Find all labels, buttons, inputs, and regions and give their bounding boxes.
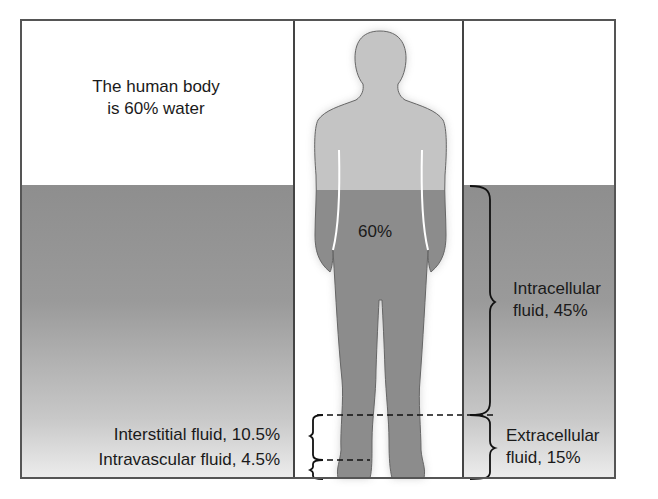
extracellular-line-2: fluid, 15% (506, 447, 600, 469)
intracellular-line-2: fluid, 45% (513, 300, 601, 322)
title-line-2: is 60% water (76, 98, 236, 120)
body-percent-label: 60% (358, 221, 392, 243)
extracellular-label: Extracellular fluid, 15% (506, 425, 600, 469)
intravascular-label: Intravascular fluid, 4.5% (40, 449, 280, 471)
interstitial-label: Interstitial fluid, 10.5% (40, 424, 280, 446)
extracellular-line-1: Extracellular (506, 425, 600, 447)
title-label: The human body is 60% water (76, 76, 236, 120)
intracellular-label: Intracellular fluid, 45% (513, 278, 601, 322)
intracellular-line-1: Intracellular (513, 278, 601, 300)
title-line-1: The human body (76, 76, 236, 98)
